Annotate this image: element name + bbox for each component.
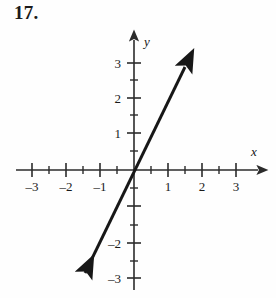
y-axis-label: y: [142, 34, 150, 49]
y-tick-label-3: 3: [115, 56, 122, 71]
x-tick-label-1: 1: [165, 179, 172, 194]
y-tick-label-1: 1: [115, 126, 122, 141]
x-tick-label-2: 2: [199, 179, 206, 194]
x-axis-label: x: [250, 144, 257, 159]
y-tick-label-2: 2: [115, 91, 122, 106]
y-tick-label--2: –2: [107, 236, 121, 251]
y-axis-group: 3 2 1 –2 –3 y: [107, 34, 150, 290]
y-tick-label--3: –3: [107, 271, 121, 286]
x-tick-label--2: –2: [59, 179, 73, 194]
x-tick-label--3: –3: [25, 179, 39, 194]
coordinate-plane-plot: –3 –2 –1 1 2 3 x 3 2: [0, 0, 276, 298]
figure-panel: 17.: [0, 0, 276, 298]
x-tick-label-3: 3: [233, 179, 240, 194]
x-tick-label--1: –1: [93, 179, 107, 194]
